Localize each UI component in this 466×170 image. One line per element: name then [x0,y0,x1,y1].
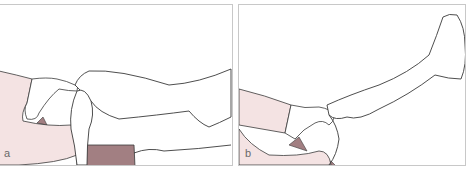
panel-label: b [245,147,251,159]
panel-label: a [4,147,10,159]
illustration-leg-extended [239,5,466,166]
illustration-knee-flexed [0,5,233,166]
figure-panel-a: a [0,4,233,166]
figure-panel-b: b [238,4,466,166]
